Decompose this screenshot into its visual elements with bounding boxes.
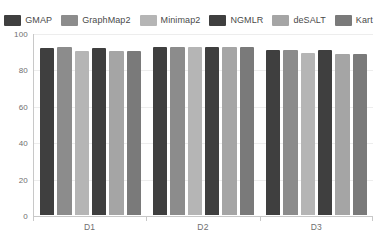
bar[interactable] [188, 47, 202, 215]
bar-groups [34, 34, 373, 215]
chart-legend: GMAPGraphMap2Minimap2NGMLRdeSALTKart [0, 10, 377, 30]
bar[interactable] [266, 50, 280, 215]
bar[interactable] [222, 47, 236, 215]
legend-item[interactable]: Minimap2 [140, 15, 201, 26]
legend-item-label: Minimap2 [161, 15, 201, 26]
bar-group-d3 [260, 34, 373, 215]
legend-swatch-icon [61, 15, 78, 26]
y-axis-tick-label: 20 [19, 175, 28, 184]
bar[interactable] [92, 48, 106, 215]
x-axis-tick-mark [146, 217, 147, 221]
legend-swatch-icon [272, 15, 289, 26]
legend-item-label: deSALT [293, 15, 325, 26]
bar[interactable] [170, 47, 184, 215]
bar[interactable] [153, 47, 167, 215]
x-axis-tick-mark [260, 217, 261, 221]
bar[interactable] [75, 51, 89, 215]
y-axis-tick-label: 60 [19, 102, 28, 111]
legend-item-label: GMAP [25, 15, 52, 26]
legend-item[interactable]: deSALT [272, 15, 325, 26]
bar[interactable] [40, 48, 54, 215]
legend-item-label: GraphMap2 [82, 15, 130, 26]
y-axis-tick-label: 40 [19, 139, 28, 148]
x-axis-tick-label: D2 [146, 222, 259, 236]
legend-swatch-icon [140, 15, 157, 26]
bar[interactable] [283, 50, 297, 215]
bar-chart: GMAPGraphMap2Minimap2NGMLRdeSALTKart 020… [0, 0, 377, 250]
legend-item[interactable]: NGMLR [209, 15, 263, 26]
legend-item[interactable]: Kart [335, 15, 373, 26]
bar[interactable] [205, 47, 219, 215]
y-axis-tick-label: 0 [23, 212, 28, 221]
bar[interactable] [57, 47, 71, 215]
y-axis: 020406080100 [0, 34, 33, 217]
bar-group-d1 [34, 34, 147, 215]
x-axis: D1D2D3 [33, 222, 373, 236]
bar[interactable] [301, 53, 315, 215]
x-axis-tick-label: D1 [33, 222, 146, 236]
bar[interactable] [109, 51, 123, 215]
bar[interactable] [353, 54, 367, 215]
x-axis-tick-marks [33, 217, 373, 221]
x-axis-tick-mark [372, 217, 373, 221]
legend-swatch-icon [209, 15, 226, 26]
legend-item-label: Kart [356, 15, 373, 26]
bar-group-d2 [147, 34, 260, 215]
legend-item[interactable]: GraphMap2 [61, 15, 130, 26]
x-axis-tick-mark [33, 217, 34, 221]
y-axis-tick-label: 80 [19, 66, 28, 75]
legend-swatch-icon [4, 15, 21, 26]
x-axis-tick-label: D3 [260, 222, 373, 236]
bar[interactable] [318, 50, 332, 215]
plot-wrapper: 020406080100 D1D2D3 [0, 34, 377, 250]
legend-item[interactable]: GMAP [4, 15, 52, 26]
legend-swatch-icon [335, 15, 352, 26]
plot-area [33, 34, 373, 217]
bar[interactable] [335, 54, 349, 215]
bar[interactable] [127, 51, 141, 215]
bar[interactable] [240, 47, 254, 215]
legend-item-label: NGMLR [230, 15, 263, 26]
y-axis-tick-label: 100 [14, 30, 28, 39]
